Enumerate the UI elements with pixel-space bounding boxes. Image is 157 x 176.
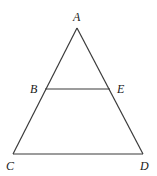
triangle-diagram: A B E C D bbox=[0, 0, 157, 176]
vertex-label-b: B bbox=[30, 82, 38, 96]
vertex-label-a: A bbox=[72, 10, 81, 24]
vertex-label-d: D bbox=[139, 159, 149, 173]
segment-ac bbox=[13, 28, 77, 154]
vertex-label-e: E bbox=[116, 82, 125, 96]
segment-ad bbox=[77, 28, 143, 154]
vertex-label-c: C bbox=[6, 159, 15, 173]
